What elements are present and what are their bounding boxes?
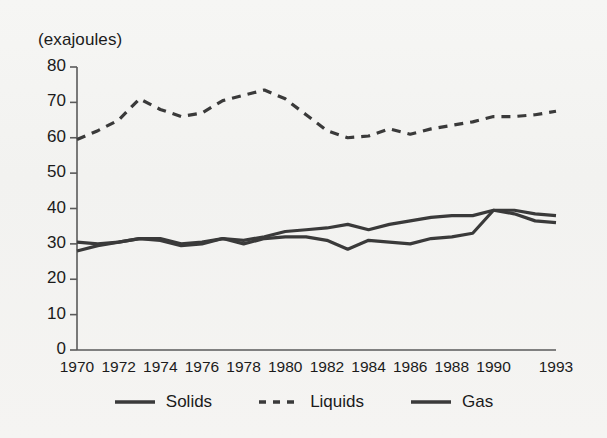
y-axis-tick-label: 50 [32,162,66,182]
series-line-liquids [77,90,556,140]
dashed-line-swatch [258,396,300,408]
solid-line-swatch [410,396,452,408]
legend-label: Liquids [310,392,364,412]
y-axis-tick-label: 40 [32,198,66,218]
chart-figure: (exajoules) 01020304050607080 1970197219… [0,0,607,438]
y-axis-tick-label: 70 [32,91,66,111]
legend-label: Gas [462,392,493,412]
chart-legend: SolidsLiquidsGas [0,392,607,412]
x-axis-tick-label: 1993 [526,358,586,376]
solid-line-swatch [114,396,156,408]
legend-entry-gas[interactable]: Gas [410,392,493,412]
x-axis-tick-label: 1990 [464,358,524,376]
y-axis-tick-label: 10 [32,304,66,324]
series-line-gas [77,210,556,251]
y-axis-tick-label: 0 [32,339,66,359]
y-axis-tick-label: 80 [32,56,66,76]
legend-label: Solids [166,392,212,412]
legend-entry-liquids[interactable]: Liquids [258,392,364,412]
y-axis-tick-label: 30 [32,233,66,253]
y-axis-tick-label: 20 [32,268,66,288]
legend-entry-solids[interactable]: Solids [114,392,212,412]
y-axis-tick-label: 60 [32,127,66,147]
